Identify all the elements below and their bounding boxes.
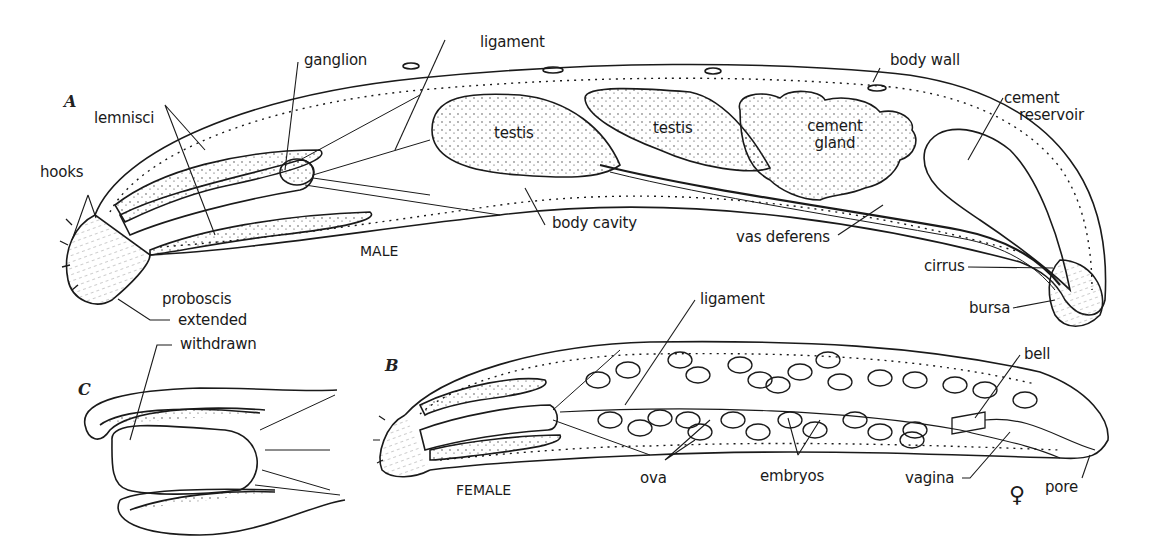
label-ganglion: ganglion (304, 52, 367, 69)
label-embryos: embryos (760, 468, 824, 485)
label-vagina: vagina (905, 470, 954, 487)
label-cement-reservoir: cement reservoir (1004, 90, 1084, 124)
withdrawn-proboscis (85, 345, 345, 535)
label-ligament-male: ligament (480, 34, 545, 51)
label-testis-1: testis (494, 125, 534, 142)
label-body-wall: body wall (890, 52, 960, 69)
label-cement-gland-line2: gland (800, 135, 870, 152)
label-withdrawn: withdrawn (180, 336, 257, 353)
label-cement-reservoir-line1: cement (1004, 90, 1084, 107)
label-extended: extended (178, 312, 247, 329)
panel-letter-a: A (64, 92, 76, 111)
label-hooks: hooks (40, 164, 83, 181)
label-cement-gland: cement gland (800, 118, 870, 152)
label-cement-gland-line1: cement (800, 118, 870, 135)
label-ova: ova (640, 470, 667, 487)
label-female: FEMALE (456, 482, 511, 498)
label-bell: bell (1024, 346, 1050, 363)
label-pore: pore (1045, 479, 1078, 496)
label-body-cavity: body cavity (552, 215, 637, 232)
label-bursa: bursa (969, 300, 1010, 317)
label-vas-deferens: vas deferens (736, 229, 830, 246)
anatomy-diagram (0, 0, 1157, 553)
male-worm (60, 40, 1106, 326)
panel-letter-b: B (385, 356, 399, 375)
label-testis-2: testis (653, 120, 693, 137)
female-worm (373, 300, 1108, 478)
panel-letter-c: C (78, 380, 91, 399)
label-proboscis: proboscis (162, 291, 231, 308)
label-cement-reservoir-line2: reservoir (1004, 107, 1084, 124)
label-lemnisci: lemnisci (94, 110, 154, 127)
label-cirrus: cirrus (924, 258, 965, 275)
label-male: MALE (360, 243, 398, 259)
female-symbol-icon: ♀ (1009, 482, 1025, 507)
label-ligament-female: ligament (700, 291, 765, 308)
